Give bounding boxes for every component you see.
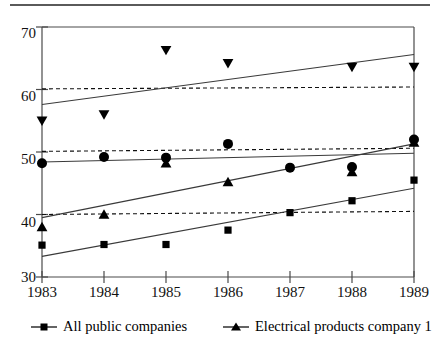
data-point-square-1983 xyxy=(38,242,45,249)
data-point-triangle-down-1983 xyxy=(37,117,48,126)
triangle-up-marker-icon xyxy=(223,321,249,333)
data-point-square-1986 xyxy=(224,227,231,234)
legend-item-all-public-companies[interactable]: All public companies xyxy=(31,318,187,335)
dashed-60 xyxy=(42,87,414,89)
data-point-circle-1986 xyxy=(223,139,233,149)
data-point-square-1988 xyxy=(348,197,355,204)
data-markers xyxy=(37,46,420,249)
data-point-circle-1987 xyxy=(285,163,295,173)
chart-page: 70 60 50 40 30 1983 1984 1985 1986 1987 … xyxy=(0,0,437,343)
square-marker-icon xyxy=(31,321,57,333)
chart-canvas xyxy=(0,0,437,312)
data-point-square-1985 xyxy=(162,241,169,248)
chart-plot-area: 70 60 50 40 30 1983 1984 1985 1986 1987 … xyxy=(0,0,437,312)
legend-label-electrical-products-company-1: Electrical products company 1 xyxy=(255,318,432,335)
dashed-40 xyxy=(42,211,414,214)
legend-item-electrical-products-company-1[interactable]: Electrical products company 1 xyxy=(223,318,432,335)
data-point-triangle-up-1983 xyxy=(37,222,48,231)
data-point-square-1984 xyxy=(100,241,107,248)
data-point-triangle-down-1985 xyxy=(161,46,172,55)
data-point-circle-1984 xyxy=(99,152,109,162)
reference-lines xyxy=(42,87,414,215)
data-point-circle-1983 xyxy=(37,158,47,168)
legend-label-all-public-companies: All public companies xyxy=(63,318,187,335)
data-point-triangle-down-1986 xyxy=(223,59,234,68)
data-point-square-1989 xyxy=(410,177,417,184)
trend-lines xyxy=(42,55,414,257)
chart-legend: All public companies Electrical products… xyxy=(0,312,437,343)
data-point-triangle-down-1988 xyxy=(347,63,358,72)
data-point-triangle-down-1989 xyxy=(409,63,420,72)
data-point-square-1987 xyxy=(286,209,293,216)
data-point-triangle-down-1984 xyxy=(99,110,110,119)
trend-line-3 xyxy=(42,188,414,256)
